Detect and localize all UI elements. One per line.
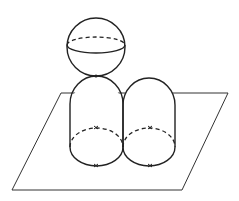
diagram-canvas <box>0 0 239 201</box>
sphere <box>67 18 125 78</box>
right-capsule-fill <box>123 77 175 167</box>
left-capsule-fill <box>70 81 123 163</box>
contact-point <box>94 74 97 77</box>
